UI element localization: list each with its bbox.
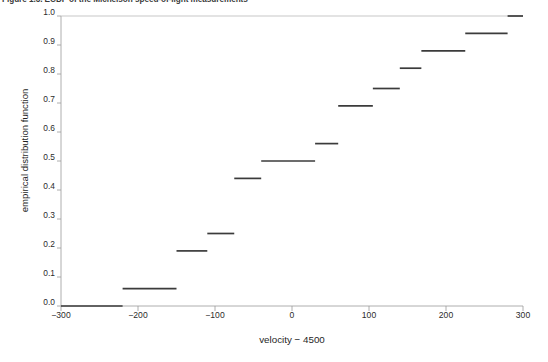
x-tick-6: 300: [493, 311, 548, 320]
x-tick-0: −300: [31, 311, 91, 320]
y-axis-ticks: [57, 16, 61, 306]
ecdf-step-plot: [0, 0, 548, 362]
x-tick-2: −100: [185, 311, 245, 320]
x-axis-title: velocity − 4500: [61, 334, 523, 345]
x-tick-1: −200: [108, 311, 168, 320]
step-function-treads: [61, 16, 523, 306]
x-tick-4: 100: [339, 311, 399, 320]
plot-area: [61, 16, 523, 306]
x-tick-3: 0: [262, 311, 322, 320]
x-tick-5: 200: [416, 311, 476, 320]
x-axis-tick-labels: −300 −200 −100 0 100 200 300: [0, 311, 548, 327]
ecdf-figure: Figure 1.3. ECDF of the Michelson speed-…: [0, 0, 548, 362]
